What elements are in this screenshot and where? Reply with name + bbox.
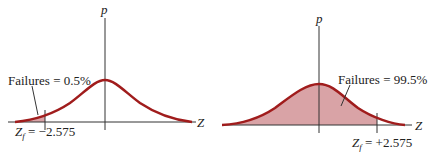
right-failures-annotation: Failures = 99.5% — [338, 73, 427, 86]
right-zf-label: Zf = +2.575 — [352, 136, 412, 152]
right-p-axis-label: p — [316, 12, 323, 25]
left-z-axis-label: Z — [197, 116, 204, 129]
right-zf-value: = +2.575 — [362, 135, 412, 150]
left-zf-label: Zf = −2.575 — [15, 125, 75, 141]
left-zf-value: = −2.575 — [25, 124, 75, 139]
right-z-axis-label: Z — [415, 119, 422, 132]
left-p-axis-label: p — [101, 3, 108, 16]
left-leader-line — [32, 86, 38, 115]
left-failures-annotation: Failures = 0.5% — [8, 74, 91, 87]
normal-distribution-figure: p Z Failures = 0.5% Zf = −2.575 p Z Fail… — [0, 0, 430, 157]
